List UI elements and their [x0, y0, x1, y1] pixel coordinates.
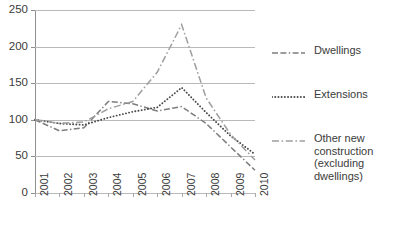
plot-area: 250200150100500	[35, 10, 255, 193]
x-axis-tick-label: 2004	[112, 173, 123, 196]
chart-page: 250200150100500 200120022003200420052006…	[0, 0, 409, 237]
x-axis-tick-label: 2010	[259, 173, 270, 196]
x-tick-mark	[133, 193, 134, 197]
series-line	[35, 102, 255, 171]
x-tick-mark	[255, 193, 256, 197]
line-chart: 250200150100500 200120022003200420052006…	[0, 0, 268, 237]
y-axis-tick-label: 100	[9, 114, 28, 126]
legend-item[interactable]: Extensions	[272, 88, 409, 101]
x-axis-tick-label: 2005	[137, 173, 148, 196]
x-tick-mark	[182, 193, 183, 197]
series-lines	[35, 10, 255, 193]
x-axis-tick-label: 2003	[88, 173, 99, 196]
y-axis-tick-label: 50	[15, 151, 28, 163]
y-axis-tick-label: 150	[9, 77, 28, 89]
x-axis-tick-label: 2007	[186, 173, 197, 196]
chart-legend: DwellingsExtensionsOther new constructio…	[272, 44, 409, 213]
x-tick-mark	[84, 193, 85, 197]
x-tick-mark	[108, 193, 109, 197]
x-axis-tick-label: 2006	[161, 173, 172, 196]
legend-line-swatch-icon	[272, 89, 305, 101]
legend-item[interactable]: Other new construction (excluding dwelli…	[272, 132, 409, 182]
x-tick-mark	[59, 193, 60, 197]
y-axis-tick-label: 200	[9, 41, 28, 53]
x-tick-mark	[206, 193, 207, 197]
x-tick-mark	[231, 193, 232, 197]
series-line	[35, 88, 255, 155]
legend-line-swatch-icon	[272, 45, 305, 57]
y-axis-tick-label: 250	[9, 4, 28, 16]
x-tick-mark	[157, 193, 158, 197]
legend-item-label: Extensions	[314, 88, 368, 101]
x-axis-tick-label: 2008	[210, 173, 221, 196]
x-axis-tick-label: 2009	[235, 173, 246, 196]
legend-item-label: Dwellings	[314, 44, 361, 57]
x-axis-tick-label: 2002	[63, 173, 74, 196]
legend-item-label: Other new construction (excluding dwelli…	[314, 132, 409, 182]
y-axis-tick-label: 0	[22, 187, 28, 199]
legend-line-swatch-icon	[272, 133, 305, 145]
series-line	[35, 25, 255, 160]
x-axis-tick-label: 2001	[39, 173, 50, 196]
legend-item[interactable]: Dwellings	[272, 44, 409, 57]
x-tick-mark	[35, 193, 36, 197]
